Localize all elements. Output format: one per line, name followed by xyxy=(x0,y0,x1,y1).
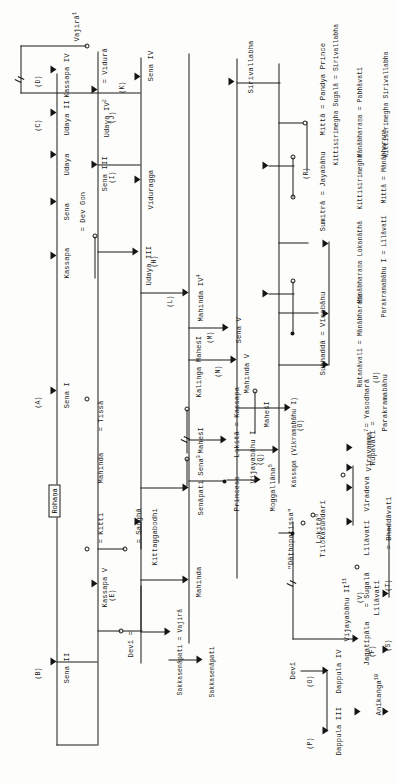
link-ratanavali-down xyxy=(278,312,318,313)
label-kassapa-vikramabahu: Kassapa (Vikramabāhu I) xyxy=(290,396,298,487)
union-tilokasundari xyxy=(310,512,315,517)
code-p: (P) xyxy=(306,737,314,749)
spine-generation-1 xyxy=(56,73,57,745)
marker-mahinda-9 xyxy=(382,707,388,715)
link-sena-v xyxy=(188,327,226,328)
marker-kassapa-v xyxy=(91,579,97,587)
link-dev-gon-across xyxy=(94,236,95,278)
code-d: (D) xyxy=(34,75,42,87)
marker-jagatipala xyxy=(352,634,358,642)
label-kassapa: Kassapa xyxy=(62,247,70,278)
link-children-row xyxy=(328,241,329,365)
marker-sena-iv xyxy=(134,72,140,80)
label-lilavati-f: Līlāvatī xyxy=(362,520,370,555)
label-sena: Sena xyxy=(62,202,70,220)
code-u: (U) xyxy=(372,371,380,383)
link-jayabahu-up xyxy=(268,165,294,166)
marker-dappula-iii xyxy=(322,726,328,734)
marker-kalingan-prince-1 xyxy=(346,483,352,491)
label-princess: Princess xyxy=(232,476,240,511)
label-jagatipala: Jagatīpāla xyxy=(362,621,370,665)
link-lower-row-1 xyxy=(352,465,353,525)
marker-sena-iii xyxy=(91,160,97,168)
link-vidura-down xyxy=(20,92,97,93)
label-sakkasenapati: Sakkasenāpati xyxy=(208,646,216,697)
marker-anikanga xyxy=(354,707,360,715)
code-a: (A) xyxy=(34,396,42,408)
marker-sundari xyxy=(346,517,352,525)
spine-generation-3 xyxy=(140,57,141,663)
label-dappula-iii: Dappula III xyxy=(334,706,342,755)
link-sumitta-across xyxy=(292,157,293,197)
link-mahesi-1-across xyxy=(186,458,187,486)
link-udaya-iii-down xyxy=(97,251,135,252)
label-kassapa-v: Kassapa V xyxy=(100,567,108,607)
link-sirivallabha-down xyxy=(236,82,280,83)
marker-udaya xyxy=(50,150,56,158)
label-vidura: = Vidurā xyxy=(100,48,108,83)
label-kittisirimegha: Kittisirimegha xyxy=(356,154,364,209)
label-parakramabahu: Parakramabāhu xyxy=(380,374,388,431)
label-parakramabahu-i: Parakramabāhu I = Līlāvatī xyxy=(380,215,388,317)
label-udaya-iii: Udaya III xyxy=(144,245,152,285)
link-virabahu-up xyxy=(268,293,294,294)
label-kittisirimegha-sugala: Kittisirimegha Sugalā = Sirivallabha xyxy=(332,23,340,165)
marker-kassapa-iv xyxy=(50,65,56,73)
spine-generation-6 xyxy=(278,63,279,483)
label-manabharana-lokanatha: Mānābharaṇa Lokanāthā xyxy=(356,220,364,303)
label-tilokasundari: Tilokasundarī xyxy=(318,500,326,557)
label-senapati-sena: Senāpati Sena3 xyxy=(194,455,204,516)
label-sakkasenapati-vajira: Sakkasenāpati = Vajirā xyxy=(176,608,184,695)
link-mahinda-v xyxy=(188,359,234,360)
link-devi-up xyxy=(97,630,120,631)
code-c: (C) xyxy=(34,119,42,131)
code-q: (Q) xyxy=(256,453,264,465)
marker-jayabahu xyxy=(262,161,268,169)
link-mitta-across xyxy=(306,121,307,171)
label-ratanavali: Ratanāvalī = Mānābharaṇa xyxy=(356,293,364,387)
link-sena-i-down xyxy=(56,744,97,745)
chart-page: (A) Sena I Kassapa Sena Udaya (C) Udaya … xyxy=(0,0,397,783)
code-i: (I) xyxy=(108,171,116,183)
marker-kalingan-prince-3 xyxy=(346,443,352,451)
link-lower-row-2 xyxy=(388,525,389,597)
marker-sena-i xyxy=(50,386,56,394)
label-vajira: Vajirā1 xyxy=(70,11,80,41)
label-sena-v: Sena V xyxy=(234,317,242,343)
marker-gajabahu-ii xyxy=(382,589,388,597)
label-anikanga: Anīkaṅga10 xyxy=(372,673,382,715)
union-lokita6 xyxy=(300,520,305,525)
link-sakkasenapati xyxy=(140,631,168,632)
link-subhadda-across xyxy=(292,281,293,333)
marker-viduragga xyxy=(134,175,140,183)
marker-sena-ii xyxy=(50,657,56,665)
label-jayabahu: = Jayabāhu xyxy=(318,151,326,195)
label-sena-iv: Sena IV xyxy=(146,50,154,81)
label-vijayabahu-ii: Vijayabāhu II11 xyxy=(340,577,350,641)
marker-vikramabahu-i xyxy=(382,645,388,653)
break-marker-3 xyxy=(286,579,296,587)
link-viduragga xyxy=(97,164,140,165)
label-mitta-pandya: Mittā = Pandya Prince xyxy=(318,42,326,135)
union-tissa xyxy=(84,396,89,401)
link-princess-up xyxy=(188,480,224,481)
marker-kittisirimegha xyxy=(322,309,328,317)
label-manabharana-pabhavati: Mānābharaṇa = Pabhāvatī xyxy=(356,66,364,157)
code-l: (L) xyxy=(166,295,174,307)
label-dappula-iv: Dappula IV xyxy=(334,649,342,693)
link-dathopatissa-up xyxy=(278,532,292,533)
label-mahesi-2: MaheśI xyxy=(262,401,270,427)
link-rupavati-down xyxy=(278,364,328,365)
label-kassapa-iv: Kassapa IV xyxy=(62,53,70,97)
label-mahinda-iv: Mahinda IV4 xyxy=(194,274,204,321)
label-devi: Devī = xyxy=(126,631,134,657)
label-sirivallabha: Sirivallabha xyxy=(246,40,254,93)
label-viradeva: Vīradeva xyxy=(362,476,370,511)
spine-generation-2 xyxy=(97,51,98,745)
link-mahinda-down xyxy=(140,579,186,580)
union-kitti xyxy=(84,546,89,551)
marker-parakramabahu-i xyxy=(322,360,328,368)
code-o-2: (O) xyxy=(306,675,314,687)
marker-udaya-iv xyxy=(91,85,97,93)
label-devi-2: Devī xyxy=(288,661,296,679)
